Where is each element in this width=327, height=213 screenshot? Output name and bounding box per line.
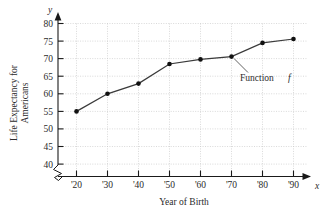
y-tick-label-75: 75: [44, 37, 54, 47]
annotation-label: Function: [240, 73, 274, 83]
axis-break-icon: [54, 165, 64, 181]
horizontal-gridlines: [58, 24, 307, 165]
annotation-leader-line: [234, 59, 248, 73]
y-tick-label-60: 60: [44, 89, 54, 99]
x-tick-label-60: '60: [195, 180, 206, 190]
annotation-function-f: Function f: [234, 59, 292, 84]
x-axis-tickmarks: [77, 171, 294, 177]
y-tick-label-55: 55: [44, 107, 54, 117]
x-tick-label-20: '20: [71, 180, 82, 190]
y-tick-label-40: 40: [44, 160, 54, 170]
x-tick-label-40: '40: [133, 180, 144, 190]
data-point-marker: [260, 41, 265, 46]
y-tick-label-50: 50: [44, 124, 54, 134]
y-axis-arrow: [55, 12, 62, 21]
x-tick-label-30: '30: [102, 180, 113, 190]
chart-canvas: 80 75 70 65 60 55 50 45 40 y: [0, 0, 327, 213]
data-point-marker: [229, 54, 234, 59]
data-point-marker: [105, 92, 110, 97]
x-tick-label-80: '80: [257, 180, 268, 190]
annotation-label-function-name: f: [288, 73, 292, 83]
y-tick-label-70: 70: [44, 54, 54, 64]
x-tick-label-70: '70: [226, 180, 237, 190]
x-axis-arrow: [303, 173, 312, 180]
x-axis-variable-label: x: [314, 181, 320, 191]
x-tick-label-50: '50: [164, 180, 175, 190]
y-axis: 80 75 70 65 60 55 50 45 40 y: [44, 5, 64, 170]
x-axis-title: Year of Birth: [159, 197, 209, 207]
y-axis-title-line2: Americans: [20, 82, 30, 123]
y-tick-label-80: 80: [44, 19, 54, 29]
life-expectancy-chart: 80 75 70 65 60 55 50 45 40 y: [0, 0, 327, 213]
y-tick-label-45: 45: [44, 142, 54, 152]
y-axis-tickmarks: [58, 24, 64, 165]
x-axis: '20 '30 '40 '50 '60 '70 '80 '90 x: [58, 171, 320, 192]
y-axis-variable-label: y: [47, 5, 53, 15]
y-axis-title-line1: Life Expectancy for: [9, 64, 19, 141]
data-point-marker: [74, 109, 79, 114]
data-point-marker: [136, 81, 141, 86]
y-axis-title: Life Expectancy for Americans: [9, 64, 30, 141]
data-point-marker: [167, 62, 172, 67]
vertical-gridlines: [77, 24, 294, 173]
data-point-marker: [291, 37, 296, 42]
x-tick-label-90: '90: [288, 180, 299, 190]
y-tick-label-65: 65: [44, 72, 54, 82]
data-point-marker: [198, 57, 203, 62]
